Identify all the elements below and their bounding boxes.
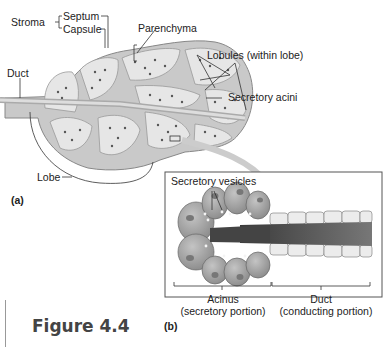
label-duct-sub: (conducting portion): [272, 305, 380, 317]
panel-a-label: (a): [11, 194, 24, 206]
label-secretory-acini: Secretory acini: [228, 91, 297, 103]
label-stroma: Stroma: [11, 16, 45, 28]
label-duct-b: Duct: [272, 293, 370, 305]
label-lobules: Lobules (within lobe): [207, 49, 303, 61]
label-acinus-sub: (secretory portion): [172, 305, 274, 317]
label-capsule: Capsule: [63, 23, 102, 35]
panel-b-label: (b): [164, 320, 177, 332]
label-secretory-vesicles: Secretory vesicles: [171, 175, 256, 187]
figure-caption: Figure 4.4: [32, 316, 130, 336]
label-parenchyma: Parenchyma: [138, 22, 197, 34]
caption-rule: [5, 300, 6, 347]
label-septum: Septum: [63, 10, 99, 22]
label-duct-a: Duct: [7, 67, 29, 79]
label-acinus: Acinus: [176, 293, 270, 305]
label-lobe: Lobe: [37, 171, 60, 183]
